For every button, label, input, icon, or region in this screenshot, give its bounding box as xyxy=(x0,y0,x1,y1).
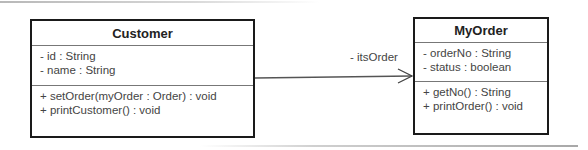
operation: + printCustomer() : void xyxy=(40,103,253,117)
class-name: Customer xyxy=(32,21,253,46)
operation: + getNo() : String xyxy=(423,85,547,99)
attribute: - id : String xyxy=(40,49,253,63)
operation: + setOrder(myOrder : Order) : void xyxy=(40,89,253,103)
operation: + printOrder() : void xyxy=(423,99,547,113)
attributes-compartment: - orderNo : String - status : boolean xyxy=(415,43,547,82)
attributes-compartment: - id : String - name : String xyxy=(32,46,253,86)
class-customer[interactable]: Customer - id : String - name : String +… xyxy=(30,19,255,138)
attribute: - status : boolean xyxy=(423,60,547,74)
scan-edge-top xyxy=(0,1,320,3)
association-role-label: - itsOrder xyxy=(350,51,398,63)
class-myorder[interactable]: MyOrder - orderNo : String - status : bo… xyxy=(413,17,549,135)
attribute: - orderNo : String xyxy=(423,46,547,60)
attribute: - name : String xyxy=(40,63,253,77)
operations-compartment: + getNo() : String + printOrder() : void xyxy=(415,82,547,113)
class-name: MyOrder xyxy=(415,19,547,43)
association-line xyxy=(255,76,412,78)
open-arrowhead-icon xyxy=(398,69,412,83)
operations-compartment: + setOrder(myOrder : Order) : void + pri… xyxy=(32,86,253,117)
scan-edge-bottom xyxy=(200,145,578,147)
